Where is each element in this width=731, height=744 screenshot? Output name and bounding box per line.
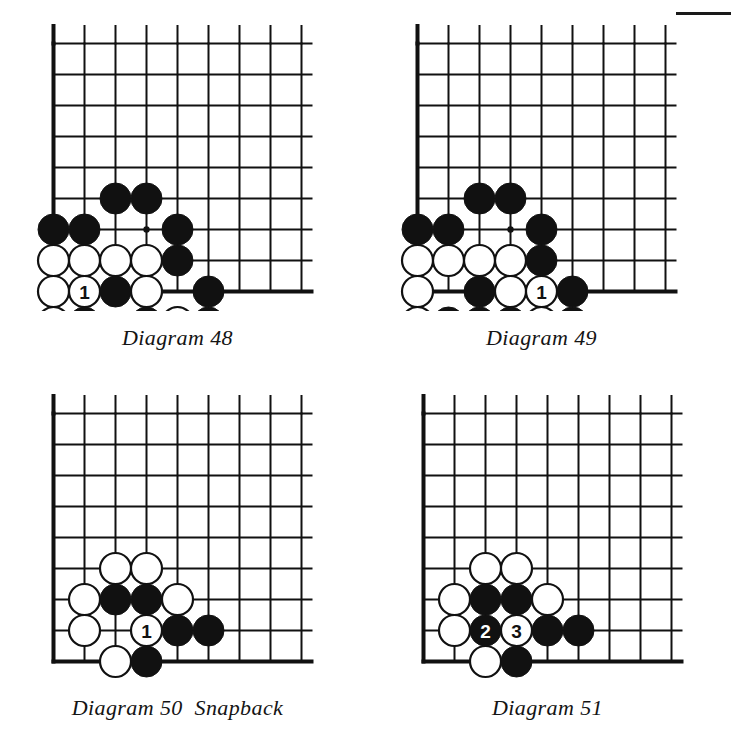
stone-move-number: 1: [79, 282, 90, 303]
diagram-50: 1Diagram 50 Snapback: [34, 394, 321, 681]
stone-white[interactable]: [439, 615, 470, 646]
stone-black[interactable]: [69, 307, 100, 311]
diagram-48-caption: Diagram 48: [34, 325, 321, 351]
stone-white[interactable]: [501, 553, 532, 584]
stone-black[interactable]: [69, 214, 100, 245]
stone-black[interactable]: [433, 307, 464, 311]
stone-black[interactable]: [526, 214, 557, 245]
stone-black[interactable]: [557, 276, 588, 307]
stone-white[interactable]: [439, 584, 470, 615]
stone-white[interactable]: [131, 245, 162, 276]
stone-black[interactable]: [162, 245, 193, 276]
stone-black[interactable]: [193, 615, 224, 646]
stone-black[interactable]: [100, 183, 131, 214]
diagram-49-caption: Diagram 49: [398, 325, 685, 351]
stone-white[interactable]: [38, 307, 69, 311]
stone-black[interactable]: [501, 646, 532, 677]
stone-white[interactable]: [100, 646, 131, 677]
stone-white[interactable]: [100, 245, 131, 276]
stone-move-number: 2: [480, 621, 491, 642]
stone-black[interactable]: [526, 245, 557, 276]
stone-move-number: 1: [536, 282, 547, 303]
stone-white[interactable]: [100, 553, 131, 584]
stone-black[interactable]: [557, 307, 588, 311]
stone-move-number: 3: [511, 621, 522, 642]
stone-black[interactable]: [464, 276, 495, 307]
stone-black[interactable]: [193, 276, 224, 307]
stone-black[interactable]: [131, 584, 162, 615]
diagram-51-board[interactable]: 23: [404, 394, 691, 681]
stone-white[interactable]: [38, 245, 69, 276]
stone-white[interactable]: [402, 307, 433, 311]
stone-white[interactable]: [526, 307, 557, 311]
stone-white[interactable]: [433, 245, 464, 276]
star-point: [507, 226, 513, 232]
stone-black-move-2[interactable]: 2: [464, 307, 495, 311]
stone-black[interactable]: [100, 276, 131, 307]
star-point: [143, 226, 149, 232]
stone-black[interactable]: [495, 307, 526, 311]
stone-white-move-1[interactable]: 1: [131, 615, 162, 646]
stone-white[interactable]: [402, 245, 433, 276]
stone-white[interactable]: [131, 553, 162, 584]
stone-black[interactable]: [495, 183, 526, 214]
stone-black[interactable]: [433, 214, 464, 245]
stone-white[interactable]: [470, 646, 501, 677]
stone-white[interactable]: [495, 245, 526, 276]
stone-black[interactable]: [162, 615, 193, 646]
stone-black[interactable]: [131, 307, 162, 311]
stone-black[interactable]: [470, 584, 501, 615]
diagram-49: 12Diagram 49: [398, 24, 685, 311]
stone-white[interactable]: [495, 276, 526, 307]
stone-black[interactable]: [563, 615, 594, 646]
stone-move-number: 1: [141, 621, 152, 642]
stone-white[interactable]: [131, 276, 162, 307]
stone-white[interactable]: [162, 584, 193, 615]
stone-black[interactable]: [100, 584, 131, 615]
diagram-48-board[interactable]: a1: [34, 24, 321, 311]
stone-black[interactable]: [38, 214, 69, 245]
diagram-48: a1Diagram 48: [34, 24, 321, 311]
diagram-49-board[interactable]: 12: [398, 24, 685, 311]
diagram-50-caption: Diagram 50 Snapback: [34, 695, 321, 721]
stone-white[interactable]: [38, 276, 69, 307]
stone-white[interactable]: [162, 307, 193, 311]
stone-black[interactable]: [193, 307, 224, 311]
stone-white[interactable]: [532, 584, 563, 615]
stone-white[interactable]: [464, 245, 495, 276]
stone-black[interactable]: [532, 615, 563, 646]
stone-black[interactable]: [464, 183, 495, 214]
stone-white[interactable]: [402, 276, 433, 307]
stone-black-move-2[interactable]: 2: [470, 615, 501, 646]
stone-white[interactable]: [69, 584, 100, 615]
stone-white[interactable]: [69, 615, 100, 646]
stone-white-move-1[interactable]: 1: [69, 276, 100, 307]
diagram-51-caption: Diagram 51: [404, 695, 691, 721]
diagram-51: 23Diagram 51: [404, 394, 691, 681]
stone-white[interactable]: [470, 553, 501, 584]
stone-black[interactable]: [162, 214, 193, 245]
stone-white[interactable]: [69, 245, 100, 276]
stone-black[interactable]: [402, 214, 433, 245]
stone-white-move-3[interactable]: 3: [501, 615, 532, 646]
stone-black[interactable]: [131, 183, 162, 214]
scan-edge-artifact: [676, 12, 731, 15]
stone-black[interactable]: [131, 646, 162, 677]
stone-white-move-1[interactable]: 1: [526, 276, 557, 307]
diagram-page: a1Diagram 4812Diagram 491Diagram 50 Snap…: [0, 0, 731, 744]
stone-black[interactable]: [501, 584, 532, 615]
diagram-50-board[interactable]: 1: [34, 394, 321, 681]
